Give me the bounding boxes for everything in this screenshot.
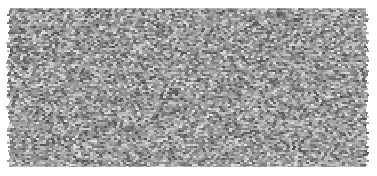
texture-stage: [0, 0, 377, 176]
grayscale-noise-texture: [0, 0, 377, 176]
